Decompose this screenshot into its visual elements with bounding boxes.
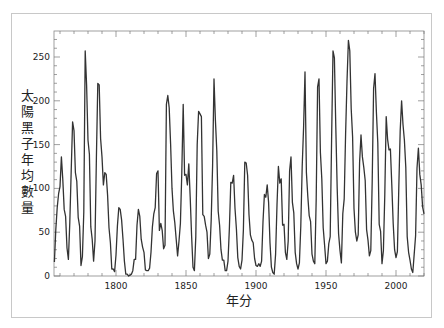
x-axis-title: 年分	[226, 293, 252, 308]
x-tick-label: 1800	[105, 281, 128, 291]
svg-text:均: 均	[21, 168, 34, 183]
x-tick-label: 1900	[245, 281, 268, 291]
y-tick-label: 0	[44, 271, 50, 281]
svg-text:陽: 陽	[21, 104, 34, 119]
y-tick-label: 200	[33, 96, 50, 106]
x-tick-label: 1950	[315, 281, 338, 291]
svg-text:量: 量	[21, 200, 34, 215]
svg-text:子: 子	[21, 136, 34, 151]
x-tick-label: 2000	[385, 281, 408, 291]
x-tick-label: 1850	[175, 281, 198, 291]
y-tick-label: 100	[33, 183, 50, 193]
svg-text:黑: 黑	[21, 120, 34, 135]
svg-text:太: 太	[21, 88, 34, 103]
sunspot-chart: 050100150200250 18001850190019502000 年分 …	[0, 0, 444, 328]
y-tick-label: 250	[33, 52, 50, 62]
y-axis-title: 太陽黑子年均數量	[21, 88, 34, 215]
y-tick-label: 50	[39, 227, 51, 237]
y-tick-label: 150	[33, 140, 50, 150]
svg-text:數: 數	[21, 184, 34, 199]
svg-text:年: 年	[21, 152, 34, 167]
